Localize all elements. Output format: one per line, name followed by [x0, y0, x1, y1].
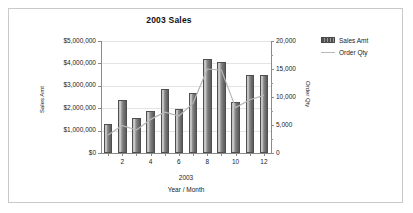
x-tick-label-12: 12	[254, 159, 274, 166]
x-tick	[193, 153, 194, 156]
y-tick	[98, 153, 101, 154]
x-tick	[207, 153, 208, 156]
y-tick-label: $2,000,000	[43, 105, 96, 112]
bar-1[interactable]	[104, 124, 113, 153]
y2-tick-label: 0	[276, 150, 280, 157]
bar-8[interactable]	[203, 59, 212, 153]
x-tick-label-10: 10	[226, 159, 246, 166]
x-tick	[250, 153, 251, 156]
x-axis-group-bracket: 2003	[101, 173, 271, 183]
y2-tick-label: 10,000	[276, 94, 296, 101]
bar-5[interactable]	[161, 89, 170, 154]
legend-bar-swatch-icon	[321, 37, 335, 43]
y2-tick-label: 5,000	[276, 122, 292, 129]
y2-tick	[271, 69, 274, 70]
legend-item-sales-amt[interactable]: Sales Amt	[321, 35, 399, 45]
x-tick-label-8: 8	[197, 159, 217, 166]
chart-title: 2003 Sales	[9, 15, 329, 25]
y2-tick	[271, 97, 274, 98]
bar-7[interactable]	[189, 93, 198, 153]
y2-minor-tick	[271, 83, 273, 84]
legend-item-label: Order Qty	[339, 49, 368, 56]
y-tick	[98, 86, 101, 87]
gridline	[101, 63, 271, 64]
x-tick	[179, 153, 180, 156]
chart-canvas: 2003 Sales Sales Amt Order Qty $0$1,000,…	[9, 9, 404, 204]
y2-axis-title: Order Qty	[305, 81, 311, 107]
bar-12[interactable]	[260, 75, 269, 153]
y-tick	[98, 63, 101, 64]
bar-4[interactable]	[146, 111, 155, 153]
y2-tick-label: 20,000	[276, 38, 296, 45]
x-tick-label-2: 2	[112, 159, 132, 166]
bar-9[interactable]	[217, 62, 226, 153]
chart-legend: Sales AmtOrder Qty	[321, 35, 399, 59]
gridline	[101, 41, 271, 42]
y2-tick	[271, 125, 274, 126]
y-tick	[98, 131, 101, 132]
x-tick	[122, 153, 123, 156]
y2-minor-tick	[271, 139, 273, 140]
legend-item-label: Sales Amt	[339, 37, 368, 44]
x-tick	[136, 153, 137, 156]
plot-area	[101, 41, 271, 153]
x-axis-group-label-text: 2003	[176, 174, 196, 181]
y-tick-label: $0	[43, 150, 96, 157]
x-tick	[165, 153, 166, 156]
legend-line-swatch-icon	[321, 49, 335, 55]
bar-2[interactable]	[118, 100, 127, 153]
y-tick-label: $5,000,000	[43, 38, 96, 45]
y-tick	[98, 108, 101, 109]
y-tick	[98, 41, 101, 42]
x-axis-title: Year / Month	[101, 186, 271, 193]
x-tick	[151, 153, 152, 156]
y2-tick	[271, 41, 274, 42]
bar-3[interactable]	[132, 118, 141, 153]
x-tick	[108, 153, 109, 156]
y2-minor-tick	[271, 111, 273, 112]
y-tick-label: $4,000,000	[43, 60, 96, 67]
x-tick	[236, 153, 237, 156]
y2-minor-tick	[271, 55, 273, 56]
y2-tick-label: 15,000	[276, 66, 296, 73]
bar-10[interactable]	[231, 102, 240, 153]
bar-6[interactable]	[175, 109, 184, 153]
x-tick	[264, 153, 265, 156]
legend-item-order-qty[interactable]: Order Qty	[321, 47, 399, 57]
x-tick	[221, 153, 222, 156]
bar-11[interactable]	[246, 75, 255, 153]
y-tick-label: $3,000,000	[43, 82, 96, 89]
y-tick-label: $1,000,000	[43, 127, 96, 134]
x-axis-group-label: 2003	[101, 173, 271, 183]
x-axis-line	[101, 153, 271, 154]
x-tick-label-4: 4	[141, 159, 161, 166]
y2-tick	[271, 153, 274, 154]
x-tick-label-6: 6	[169, 159, 189, 166]
report-frame: 2003 Sales Sales Amt Order Qty $0$1,000,…	[8, 8, 403, 203]
y-axis-line	[101, 41, 102, 153]
